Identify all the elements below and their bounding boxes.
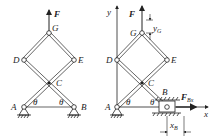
label-c-left: C bbox=[56, 78, 63, 88]
label-g-right: G bbox=[130, 28, 137, 38]
force-label-left: F bbox=[53, 9, 60, 19]
x-axis-label: x bbox=[203, 109, 208, 119]
angle-theta-b-right: θ bbox=[150, 97, 155, 107]
joint-c-right bbox=[140, 81, 143, 84]
label-a-left: A bbox=[10, 102, 17, 112]
joint-e-right bbox=[165, 58, 170, 63]
label-b-right: B bbox=[162, 87, 168, 97]
right-bars bbox=[116, 32, 168, 108]
right-mechanism: y x F yG bbox=[104, 6, 208, 136]
reaction-force-label: FBx bbox=[180, 92, 194, 103]
dimension-yg-label: yG bbox=[152, 23, 162, 34]
angle-theta-b-left: θ bbox=[59, 97, 64, 107]
left-bars bbox=[23, 32, 75, 108]
force-label-right: F bbox=[128, 9, 135, 19]
label-e-right: E bbox=[170, 55, 177, 65]
dimension-xb-label: xB bbox=[169, 120, 178, 131]
joint-d-left bbox=[22, 58, 27, 63]
label-d-right: D bbox=[105, 55, 113, 65]
label-g-left: G bbox=[52, 23, 59, 33]
joint-g-left bbox=[47, 31, 52, 36]
label-a-right: A bbox=[104, 102, 111, 112]
joint-d-right bbox=[115, 58, 120, 63]
label-e-left: E bbox=[77, 55, 84, 65]
left-mechanism: F G D E C A B θ bbox=[10, 9, 87, 118]
angle-theta-a-right: θ bbox=[126, 97, 131, 107]
label-c-right: C bbox=[148, 78, 155, 88]
joint-e-left bbox=[72, 58, 77, 63]
label-b-left: B bbox=[81, 102, 87, 112]
y-axis-label: y bbox=[106, 7, 111, 17]
label-d-left: D bbox=[12, 55, 20, 65]
angle-theta-a-left: θ bbox=[33, 97, 38, 107]
joint-c-left bbox=[47, 81, 50, 84]
joint-g-right bbox=[140, 31, 145, 36]
diagram-canvas: F G D E C A B θ bbox=[0, 0, 215, 140]
